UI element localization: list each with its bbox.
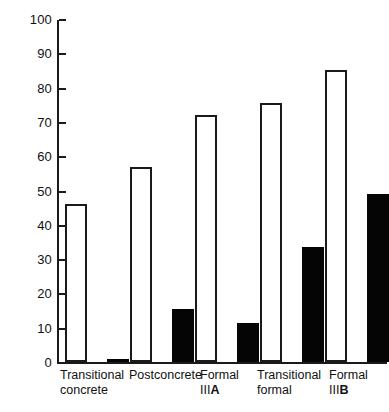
x-axis-label-line1: Transitional [257,368,321,382]
x-axis-label-line1: Formal [200,368,239,382]
x-axis-label: Transitionalconcrete [60,368,124,398]
x-axis-label: FormalIIIB [329,368,368,398]
bar-group [195,20,259,362]
y-axis-tick-label: 10 [18,322,52,335]
bar-filled [107,359,129,362]
y-axis-tick-label: 50 [18,185,52,198]
bar-group [130,20,194,362]
y-axis-tick-label: 30 [18,253,52,266]
x-axis-label-line2: IIIB [329,383,368,398]
y-axis-tick-label: 90 [18,47,52,60]
y-axis-tick-label: 20 [18,287,52,300]
x-axis-label-suffix: B [339,383,348,397]
y-axis-tick-label-wrap: 100 [0,13,52,26]
bar-filled [237,323,259,362]
x-axis-label-line2-text: concrete [60,383,108,397]
y-axis-tick-label-wrap: 10 [0,322,52,335]
bar-filled [172,309,194,362]
y-axis-tick-label-wrap: 0 [0,356,52,369]
x-axis-label-line2-text: III [329,383,339,397]
y-axis-tick-label-wrap: 90 [0,47,52,60]
plot-area [57,20,387,362]
bar-filled [302,247,324,362]
y-axis-tick-label: 100 [18,13,52,26]
x-axis-label-line1: Formal [329,368,368,382]
y-axis-tick-label-wrap: 60 [0,150,52,163]
x-axis-label-line2: formal [257,383,321,398]
bar-group [65,20,129,362]
x-axis-label: Transitionalformal [257,368,321,398]
y-axis-tick-label-wrap: 50 [0,185,52,198]
y-axis-tick-label-wrap: 70 [0,116,52,129]
x-axis-label-line2: concrete [60,383,124,398]
y-axis-tick-label: 60 [18,150,52,163]
x-axis-label-line2-text: III [200,383,210,397]
x-axis-label-line2-text: formal [257,383,292,397]
y-axis-tick-label: 0 [18,356,52,369]
y-axis-tick-label-wrap: 20 [0,287,52,300]
y-axis-tick-label-wrap: 40 [0,219,52,232]
bar-open [260,103,282,362]
x-axis-labels: TransitionalconcretePostconcreteFormalII… [57,368,387,412]
x-axis-label: FormalIIIA [200,368,239,398]
y-axis-tick-label: 70 [18,116,52,129]
bar-open [195,115,217,362]
bar-group [260,20,324,362]
y-axis-tick-label: 80 [18,82,52,95]
x-axis-label-suffix: A [210,383,219,397]
x-axis-label-line1: Transitional [60,368,124,382]
bar-open [65,204,87,362]
x-axis-line [57,362,387,364]
bar-open [325,70,347,362]
bar-group [325,20,389,362]
bar-filled [367,194,389,362]
y-axis-tick-label: 40 [18,219,52,232]
x-axis-label: Postconcrete [129,368,202,383]
y-axis-tick-label-wrap: 30 [0,253,52,266]
x-axis-label-line1: Postconcrete [129,368,202,382]
x-axis-label-line2: IIIA [200,383,239,398]
bar-open [130,167,152,363]
y-axis-tick-label-wrap: 80 [0,82,52,95]
